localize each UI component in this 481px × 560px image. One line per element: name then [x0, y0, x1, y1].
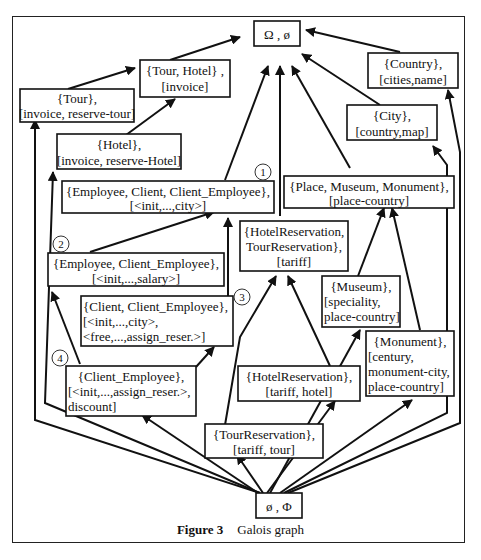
svg-text:[<init,...,salary>]: [<init,...,salary>]: [92, 271, 180, 286]
svg-text:{TourReservation},: {TourReservation},: [213, 427, 315, 442]
svg-text:3: 3: [239, 291, 245, 303]
svg-text:[century,: [century,: [368, 349, 414, 364]
svg-text:{City},: {City},: [373, 108, 411, 123]
svg-text:{Employee, Client_Employee},: {Employee, Client_Employee},: [53, 256, 219, 271]
svg-text:{Client_Employee},: {Client_Employee},: [78, 369, 185, 384]
svg-text:{Hotel},: {Hotel},: [97, 137, 142, 152]
svg-text:2: 2: [58, 238, 64, 250]
badge-3: 3: [234, 289, 250, 305]
node-monument: {Monument}, [century, monument-city, pla…: [366, 331, 454, 396]
edge-country-top: [306, 30, 400, 52]
node-place: {Place, Museum, Monument}, [place-countr…: [284, 176, 454, 208]
node-hotelres-tourres: {HotelReservation, TourReservation}, [ta…: [240, 221, 348, 271]
node-museum: {Museum}, [speciality, place-country]: [322, 276, 400, 327]
svg-text:place-country]: place-country]: [324, 309, 400, 324]
svg-text:TourReservation},: TourReservation},: [246, 239, 342, 254]
galois-graph: Ω , ø {Tour, Hotel} , [invoice] {Tour}, …: [0, 0, 481, 560]
node-client-clemp: {Client, Client_Employee}, [<init,...,ci…: [81, 296, 233, 346]
svg-text:discount]: discount]: [68, 399, 116, 414]
svg-text:[tariff, tour]: [tariff, tour]: [233, 442, 295, 457]
svg-text:[tariff, hotel]: [tariff, hotel]: [266, 384, 333, 399]
badge-1: 1: [255, 164, 271, 180]
svg-text:Ω , ø: Ω , ø: [264, 27, 290, 42]
svg-text:place-country]: place-country]: [368, 379, 444, 394]
svg-text:{HotelReservation,: {HotelReservation,: [244, 224, 344, 239]
svg-text:[<init,...,city>]: [<init,...,city>]: [130, 198, 206, 213]
edge-empclient-top: [225, 66, 268, 180]
node-bottom: ø , Φ: [256, 493, 302, 518]
node-client-employee: {Client_Employee}, [<init,...,assign_res…: [66, 366, 196, 416]
edge-place-top: [292, 66, 350, 168]
svg-text:<free,...,assign_reser.>]: <free,...,assign_reser.>]: [83, 329, 205, 344]
node-employee-client: {Employee, Client, Client_Employee}, [<i…: [62, 181, 274, 213]
svg-text:[invoice, reserve-Hotel]: [invoice, reserve-Hotel]: [57, 153, 181, 168]
svg-text:{Employee, Client, Client_Empl: {Employee, Client, Client_Employee},: [66, 184, 270, 199]
svg-text:[<init,...,assign_reser.>,: [<init,...,assign_reser.>,: [68, 384, 191, 399]
svg-text:[cities,name]: [cities,name]: [379, 72, 447, 87]
edge-tourhotel-top: [170, 37, 240, 60]
badge-2: 2: [53, 236, 69, 252]
svg-text:{Client, Client_Employee},: {Client, Client_Employee},: [83, 299, 228, 314]
svg-text:{Tour, Hotel} ,: {Tour, Hotel} ,: [146, 63, 224, 78]
edge-museum-place: [358, 208, 384, 276]
svg-text:[tariff]: [tariff]: [277, 254, 311, 269]
svg-text:1: 1: [260, 166, 266, 178]
node-country: {Country}, [cities,name]: [368, 53, 458, 88]
node-tour-hotel: {Tour, Hotel} , [invoice]: [140, 60, 230, 97]
svg-text:[invoice]: [invoice]: [162, 79, 209, 94]
svg-text:{Tour},: {Tour},: [57, 91, 97, 106]
node-top: Ω , ø: [254, 21, 300, 46]
figure-caption: Figure 3Galois graph: [0, 522, 481, 538]
svg-text:{Place, Museum, Monument},: {Place, Museum, Monument},: [289, 179, 448, 194]
svg-text:[country,map]: [country,map]: [355, 124, 428, 139]
svg-text:{Monument},: {Monument},: [374, 334, 447, 349]
svg-text:{Country},: {Country},: [384, 56, 442, 71]
svg-text:monument-city,: monument-city,: [368, 364, 450, 379]
svg-text:[<init,...,city>,: [<init,...,city>,: [83, 314, 158, 329]
svg-text:{Museum},: {Museum},: [330, 279, 391, 294]
edge-tour-tourhotel: [68, 68, 135, 89]
svg-text:{HotelReservation},: {HotelReservation},: [246, 369, 353, 384]
figure-title: Galois graph: [237, 522, 304, 537]
node-city: {City}, [country,map]: [347, 105, 437, 140]
edge-cliemp-clientclemp: [196, 347, 214, 367]
svg-text:[speciality,: [speciality,: [324, 294, 381, 309]
svg-text:[invoice, reserve-tour]: [invoice, reserve-tour]: [19, 106, 135, 121]
svg-text:ø , Φ: ø , Φ: [266, 499, 292, 514]
badge-4: 4: [52, 350, 68, 366]
node-tourres: {TourReservation}, [tariff, tour]: [205, 424, 323, 458]
node-hotel: {Hotel}, [invoice, reserve-Hotel]: [57, 134, 181, 169]
edge-empclemp-empclient: [90, 212, 214, 252]
figure-label: Figure 3: [177, 522, 223, 537]
svg-text:[place-country]: [place-country]: [329, 193, 409, 208]
svg-text:4: 4: [57, 352, 63, 364]
node-employee-clemp: {Employee, Client_Employee}, [<init,...,…: [48, 253, 224, 286]
node-tour: {Tour}, [invoice, reserve-tour]: [19, 89, 135, 122]
node-hotelres: {HotelReservation}, [tariff, hotel]: [238, 366, 360, 401]
